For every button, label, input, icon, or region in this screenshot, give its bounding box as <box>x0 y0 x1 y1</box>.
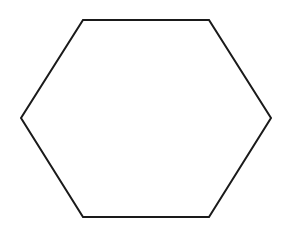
diagram-canvas <box>0 0 287 229</box>
hexagon-diagram <box>0 0 287 229</box>
hexagon-shape <box>21 20 271 217</box>
